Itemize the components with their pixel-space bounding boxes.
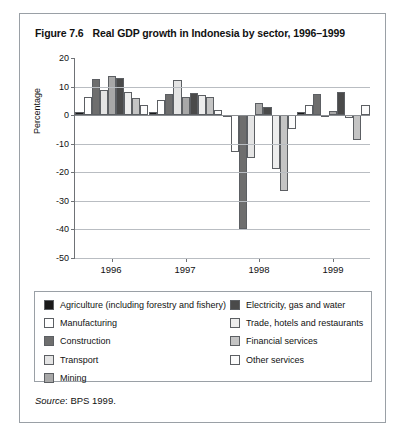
figure-number: Figure 7.6 bbox=[35, 27, 84, 39]
bar bbox=[108, 76, 116, 115]
bar bbox=[84, 97, 92, 116]
bar bbox=[255, 103, 263, 115]
bar bbox=[157, 100, 165, 115]
bar-slot bbox=[182, 58, 190, 258]
bar-slot bbox=[173, 58, 181, 258]
y-axis-tick-label: -10 bbox=[56, 139, 69, 149]
legend-item-label: Electricity, gas and water bbox=[246, 300, 345, 310]
bar bbox=[305, 105, 313, 115]
bar-slot bbox=[100, 58, 108, 258]
gridline bbox=[75, 258, 370, 259]
y-axis-tick-mark bbox=[71, 87, 75, 88]
y-axis-tick-label: -50 bbox=[56, 253, 69, 263]
bar bbox=[206, 97, 214, 116]
bar-slot bbox=[84, 58, 92, 258]
bar-slot bbox=[361, 58, 369, 258]
bar-slot bbox=[329, 58, 337, 258]
figure-title-text: Real GDP growth in Indonesia by sector, … bbox=[93, 27, 345, 39]
legend-column-left: Agriculture (including forestry and fish… bbox=[44, 299, 230, 384]
bar-slot bbox=[263, 58, 271, 258]
legend-item-label: Manufacturing bbox=[60, 318, 117, 328]
bar-slot bbox=[124, 58, 132, 258]
y-axis-tick-mark bbox=[71, 201, 75, 202]
x-axis-tick-label: 1999 bbox=[296, 264, 370, 278]
bar-slot bbox=[214, 58, 222, 258]
y-axis-tick-label: 0 bbox=[64, 110, 69, 120]
legend-item: Electricity, gas and water bbox=[230, 299, 366, 311]
legend-swatch bbox=[230, 336, 240, 346]
bar-slot bbox=[321, 58, 329, 258]
legend-item: Manufacturing bbox=[44, 317, 230, 329]
x-axis-labels: 1996199719981999 bbox=[74, 264, 370, 278]
bar bbox=[231, 115, 239, 152]
legend: Agriculture (including forestry and fish… bbox=[34, 291, 372, 382]
x-axis-tick-label: 1996 bbox=[74, 264, 148, 278]
y-axis-tick-mark bbox=[71, 115, 75, 116]
bar bbox=[140, 105, 148, 115]
legend-swatch bbox=[44, 318, 54, 328]
bar-slot bbox=[313, 58, 321, 258]
y-axis-label: Percentage bbox=[32, 88, 42, 134]
bar bbox=[313, 94, 321, 115]
y-axis-tick-label: -40 bbox=[56, 224, 69, 234]
bar-slot bbox=[132, 58, 140, 258]
bar bbox=[116, 78, 124, 115]
bar-groups bbox=[75, 58, 370, 258]
bar bbox=[92, 79, 100, 116]
legend-swatch bbox=[230, 300, 240, 310]
bar-slot bbox=[305, 58, 313, 258]
legend-swatch bbox=[44, 336, 54, 346]
legend-swatch bbox=[230, 355, 240, 365]
bar-slot bbox=[337, 58, 345, 258]
bar-slot bbox=[231, 58, 239, 258]
bar-group bbox=[223, 58, 297, 258]
legend-item: Construction bbox=[44, 335, 230, 347]
legend-item: Agriculture (including forestry and fish… bbox=[44, 299, 230, 311]
figure-title: Figure 7.6Real GDP growth in Indonesia b… bbox=[35, 27, 375, 39]
legend-swatch bbox=[44, 373, 54, 383]
bar-slot bbox=[116, 58, 124, 258]
bar bbox=[353, 115, 361, 140]
figure-container: Figure 7.6Real GDP growth in Indonesia b… bbox=[19, 13, 386, 423]
bar-slot bbox=[353, 58, 361, 258]
legend-swatch bbox=[44, 300, 54, 310]
gridline bbox=[75, 144, 370, 145]
legend-item: Trade, hotels and restaurants bbox=[230, 317, 366, 329]
y-axis-tick-label: -20 bbox=[56, 167, 69, 177]
bar-slot bbox=[165, 58, 173, 258]
bar-group bbox=[296, 58, 370, 258]
legend-item-label: Mining bbox=[60, 373, 87, 383]
bar-group bbox=[75, 58, 149, 258]
bar-slot bbox=[190, 58, 198, 258]
bar-slot bbox=[345, 58, 353, 258]
bar-slot bbox=[223, 58, 231, 258]
bar-slot bbox=[140, 58, 148, 258]
source-text: : BPS 1999. bbox=[65, 395, 116, 406]
x-axis-tick-label: 1998 bbox=[222, 264, 296, 278]
y-axis-tick-label: 20 bbox=[59, 53, 69, 63]
legend-item: Mining bbox=[44, 372, 230, 384]
plot-region: 20100-10-20-30-40-50 bbox=[74, 58, 370, 259]
y-axis-tick-label: -30 bbox=[56, 196, 69, 206]
legend-item-label: Trade, hotels and restaurants bbox=[246, 318, 363, 328]
bar-group bbox=[149, 58, 223, 258]
legend-item-label: Transport bbox=[60, 355, 98, 365]
x-axis-tick-label: 1997 bbox=[148, 264, 222, 278]
bar-slot bbox=[247, 58, 255, 258]
gridline bbox=[75, 229, 370, 230]
gridline bbox=[75, 87, 370, 88]
y-axis-tick-mark bbox=[71, 258, 75, 259]
legend-item: Financial services bbox=[230, 335, 366, 347]
bar-slot bbox=[280, 58, 288, 258]
chart-area: Percentage 20100-10-20-30-40-50 19961997… bbox=[34, 50, 374, 280]
bar bbox=[361, 105, 369, 115]
bar-slot bbox=[239, 58, 247, 258]
bar bbox=[124, 92, 132, 115]
bar bbox=[190, 93, 198, 115]
bar bbox=[173, 80, 181, 115]
y-axis-tick-mark bbox=[71, 172, 75, 173]
bar-slot bbox=[198, 58, 206, 258]
bar bbox=[337, 92, 345, 115]
bar bbox=[132, 98, 140, 115]
bar-slot bbox=[149, 58, 157, 258]
